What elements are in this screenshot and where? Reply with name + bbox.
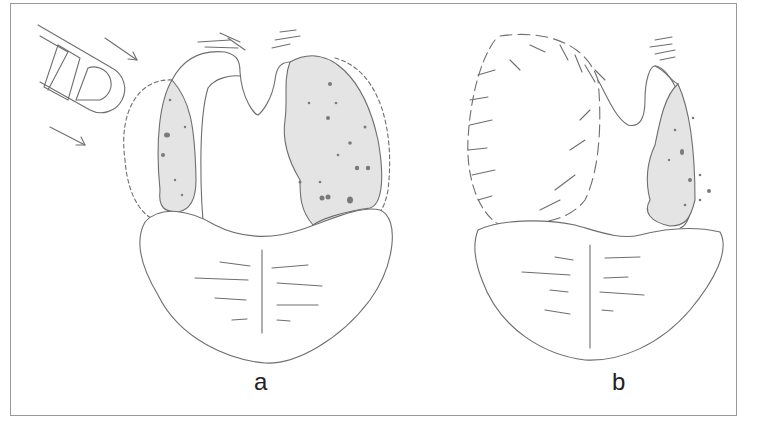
- panel-label-b: b: [612, 368, 625, 396]
- diagram-canvas: [0, 0, 758, 427]
- panel-a: [38, 25, 392, 363]
- panel-label-a: a: [254, 368, 267, 396]
- arrow-icon: [50, 38, 137, 145]
- instrument-icon: [38, 25, 125, 113]
- panel-b: [468, 34, 723, 360]
- hatched-mass: [468, 34, 605, 225]
